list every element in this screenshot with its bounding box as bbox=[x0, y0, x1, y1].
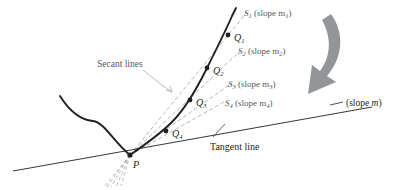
marker-q3 bbox=[188, 98, 193, 103]
secant-label-s1-sub: 1 bbox=[249, 12, 252, 19]
secant-lines-annotation: Secant lines bbox=[97, 60, 143, 70]
marker-q4 bbox=[164, 129, 169, 134]
figure-canvas bbox=[0, 0, 408, 190]
tangent-slope-variable: m bbox=[372, 98, 379, 108]
secant-label-s3-slope: slope m bbox=[241, 79, 269, 89]
point-label-q3-sub: 3 bbox=[203, 102, 206, 109]
slope-m-leader bbox=[330, 102, 343, 105]
point-label-q4-sub: 4 bbox=[179, 133, 182, 140]
marker-q2 bbox=[205, 66, 210, 71]
secant-line-s2 bbox=[130, 51, 240, 155]
point-label-q1: Q1 bbox=[234, 33, 244, 45]
marker-p bbox=[127, 152, 132, 157]
point-label-q4: Q4 bbox=[172, 129, 182, 141]
secant-label-s3-sub: 3 bbox=[233, 83, 236, 90]
secant-ext-s3 bbox=[111, 155, 130, 187]
secant-label-s4-sub: 4 bbox=[230, 102, 233, 109]
secant-label-s3: S3 (slope m3) bbox=[228, 80, 276, 91]
secant-ext-s2 bbox=[107, 155, 130, 187]
marker-q1 bbox=[226, 33, 231, 38]
secant-ext-s5 bbox=[121, 155, 130, 186]
secant-label-s2: S2 (slope m2) bbox=[238, 47, 286, 58]
point-label-p-text: P bbox=[133, 159, 139, 170]
tangent-line bbox=[13, 107, 372, 171]
point-label-q2-sub: 2 bbox=[220, 70, 223, 77]
secant-label-s1-slope-sub: 1 bbox=[285, 12, 288, 19]
convergence-arrow-icon bbox=[308, 14, 340, 94]
point-label-q1-sub: 1 bbox=[241, 37, 244, 44]
secant-label-s4-slope: slope m bbox=[238, 98, 266, 108]
secant-label-s2-slope-sub: 2 bbox=[279, 50, 282, 57]
point-label-q2: Q2 bbox=[213, 66, 223, 78]
point-label-q3: Q3 bbox=[196, 98, 206, 110]
secant-label-s2-slope: slope m bbox=[251, 46, 279, 56]
secant-label-s3-slope-sub: 3 bbox=[269, 83, 272, 90]
secant-label-s4: S4 (slope m4) bbox=[225, 99, 273, 110]
tangent-annotation-leader bbox=[213, 124, 225, 137]
secant-label-s1-slope: slope m bbox=[257, 8, 285, 18]
tangent-slope-annotation: (slope m) bbox=[346, 99, 382, 109]
secant-label-s4-slope-sub: 4 bbox=[266, 102, 269, 109]
tangent-secant-figure: P Q1 Q2 Q3 Q4 S1 (slope m1) S2 (slope m2… bbox=[0, 0, 408, 190]
point-label-p: P bbox=[133, 160, 139, 170]
secant-label-s1: S1 (slope m1) bbox=[244, 9, 292, 20]
tangent-line-annotation: Tangent line bbox=[210, 142, 260, 152]
secant-annotation-leader bbox=[143, 70, 172, 92]
secant-label-s2-sub: 2 bbox=[243, 50, 246, 57]
secant-extensions-below bbox=[104, 155, 130, 187]
